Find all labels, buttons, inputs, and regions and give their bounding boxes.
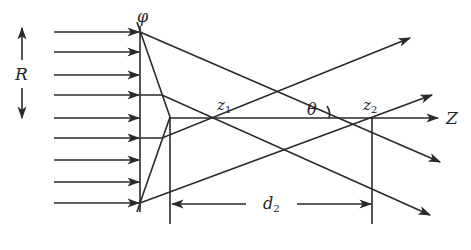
refracted-ray-upper-mid: [140, 95, 430, 215]
z1-marker: z1: [216, 96, 231, 115]
refracted-ray-bottom: [140, 95, 432, 203]
z-axis-label: Z: [445, 108, 459, 128]
d2-dimension: d2: [170, 118, 371, 224]
theta-label: θ: [307, 100, 317, 119]
z1-label: z1: [216, 96, 231, 115]
theta-arc-icon: [327, 106, 330, 118]
optics-diagram: R φ Z z1 z2: [0, 0, 471, 250]
z2-label: z2: [362, 96, 377, 115]
radius-label: R: [14, 64, 28, 84]
phi-label: φ: [137, 7, 149, 26]
incoming-rays: [54, 32, 139, 203]
d2-label: d2: [263, 194, 280, 214]
refracted-ray-lower-mid: [140, 38, 410, 138]
refracted-rays: [140, 32, 440, 215]
refracted-ray-top: [140, 32, 440, 162]
element-profile: [137, 22, 170, 212]
radius-indicator: R: [14, 28, 28, 118]
